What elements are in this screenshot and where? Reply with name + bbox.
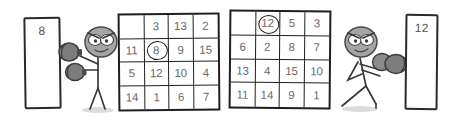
grid-cell-value: 15 — [199, 43, 212, 55]
grid-cell[interactable]: 11 — [231, 83, 256, 107]
grid-cell-value: 5 — [289, 17, 296, 29]
grid-cell[interactable]: 2 — [193, 15, 218, 39]
left-boxer-body — [80, 56, 105, 109]
grid-cell[interactable]: 1 — [304, 83, 329, 107]
grid-cell[interactable]: 11 — [120, 39, 145, 63]
grid-cell[interactable]: 1 — [145, 85, 170, 109]
right-boxer-drawing — [336, 14, 410, 114]
grid-cell-value: 1 — [313, 89, 320, 101]
grid-cell[interactable]: 6 — [169, 85, 194, 109]
left-boxer-head — [85, 27, 117, 57]
grid-cell-value: 1 — [153, 91, 160, 103]
grid-cell-value: 5 — [129, 68, 136, 80]
grid-cell[interactable]: 13 — [231, 59, 256, 83]
right-boxer-head — [345, 27, 377, 57]
grid-cell-value: 2 — [202, 20, 209, 32]
grid-cell-value: 13 — [174, 20, 187, 32]
grid-cell-value: 8 — [289, 41, 296, 53]
grid-cell-value: 6 — [240, 41, 247, 53]
grid-cell-value: 10 — [310, 65, 323, 77]
grid-cell-value: 13 — [236, 64, 249, 76]
grid-cell-value: 14 — [126, 92, 139, 104]
grid-cell[interactable]: 3 — [144, 15, 169, 39]
grid-cell[interactable] — [231, 12, 256, 36]
grid-cell[interactable]: 15 — [280, 60, 305, 84]
grid-cell[interactable]: 6 — [231, 35, 256, 59]
grid-cell-value: 10 — [174, 67, 187, 79]
grid-cell-value: 12 — [150, 67, 163, 79]
right-score-panel-value: 12 — [407, 21, 436, 35]
grid-cell-value: 11 — [126, 44, 138, 56]
grid-cell[interactable]: 15 — [193, 38, 218, 62]
right-score-panel: 12 — [404, 14, 438, 110]
grid-cell[interactable]: 14 — [120, 86, 145, 110]
grid-cell[interactable]: 3 — [305, 12, 330, 36]
grid-cell-value: 6 — [178, 91, 185, 103]
grid-cell-value: 2 — [264, 41, 271, 53]
grid-cell-value: 11 — [236, 89, 248, 101]
grid-cell-value: 4 — [264, 65, 271, 77]
grid-cell[interactable]: 14 — [255, 83, 280, 107]
grid-cell[interactable]: 9 — [280, 83, 305, 107]
grid-cell[interactable]: 13 — [169, 15, 194, 39]
left-score-panel-value: 8 — [25, 24, 58, 38]
grid-cell-value: 3 — [153, 20, 160, 32]
grid-cell[interactable]: 12 — [256, 12, 281, 36]
left-boxer — [58, 14, 120, 114]
grid-cell-value: 7 — [203, 91, 210, 103]
grid-cell[interactable]: 5 — [120, 62, 145, 86]
right-number-grid[interactable]: 125362871341510111491 — [229, 10, 332, 110]
left-boxer-drawing — [58, 14, 120, 114]
left-boxer-shadow — [82, 107, 114, 113]
grid-cell[interactable]: 10 — [169, 62, 194, 86]
grid-cell-value: 7 — [314, 41, 321, 53]
right-boxer-glove-front — [385, 55, 407, 74]
grid-cell-value: 14 — [260, 89, 273, 101]
left-boxer-glove-upper — [59, 43, 82, 61]
grid-cell[interactable]: 12 — [145, 62, 170, 86]
left-boxer-glove-lower — [66, 64, 87, 81]
grid-cell[interactable] — [120, 15, 145, 39]
right-boxer — [336, 14, 410, 114]
left-score-panel: 8 — [23, 17, 61, 110]
grid-cell-value: 3 — [314, 18, 321, 30]
grid-cell[interactable]: 7 — [194, 85, 219, 109]
grid-cell[interactable]: 8 — [144, 39, 169, 63]
grid-cell-value: 4 — [203, 67, 210, 79]
grid-cell[interactable]: 2 — [256, 36, 281, 60]
grid-cell[interactable]: 10 — [304, 60, 329, 84]
grid-cell-value: 9 — [177, 44, 184, 56]
grid-cell[interactable]: 7 — [304, 36, 329, 60]
grid-cell[interactable]: 8 — [280, 36, 305, 60]
grid-cell-value: 8 — [153, 44, 160, 56]
left-number-grid[interactable]: 313211891551210414167 — [118, 13, 221, 112]
grid-cell-value: 15 — [285, 65, 298, 77]
grid-cell[interactable]: 4 — [193, 62, 218, 86]
right-boxer-shadow — [342, 106, 378, 112]
grid-cell-value: 12 — [261, 17, 274, 29]
grid-cell[interactable]: 9 — [169, 38, 194, 62]
grid-cell[interactable]: 5 — [280, 12, 305, 36]
grid-cell-value: 9 — [288, 89, 295, 101]
scene: 8 — [0, 0, 450, 124]
grid-cell[interactable]: 4 — [255, 59, 280, 83]
